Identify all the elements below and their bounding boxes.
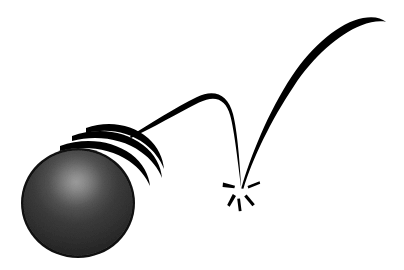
- ball-highlight: [52, 162, 104, 202]
- bouncing-ball-illustration: Bouncing Ball Motion Study: [0, 0, 404, 270]
- ball: [21, 148, 135, 258]
- illustration-canvas: Bouncing Ball Motion Study: [0, 0, 404, 270]
